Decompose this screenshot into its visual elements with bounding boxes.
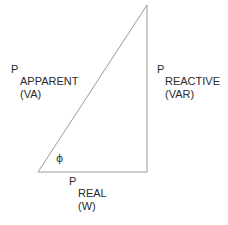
real-power-symbol: P (69, 176, 76, 187)
phi-angle-symbol: ϕ (56, 153, 63, 164)
real-power-name: REAL (78, 188, 107, 199)
apparent-power-unit: (VA) (20, 89, 41, 100)
reactive-power-name: REACTIVE (165, 76, 220, 87)
power-triangle-diagram: P APPARENT (VA) P REACTIVE (VAR) P REAL … (0, 0, 228, 225)
reactive-power-symbol: P (157, 64, 164, 75)
real-power-unit: (W) (78, 201, 96, 212)
reactive-power-unit: (VAR) (165, 89, 194, 100)
power-triangle-graphic (0, 0, 228, 225)
apparent-power-line (38, 5, 147, 172)
apparent-power-name: APPARENT (20, 76, 78, 87)
apparent-power-symbol: P (11, 64, 18, 75)
